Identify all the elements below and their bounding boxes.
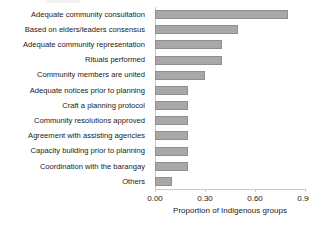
bar — [155, 25, 238, 34]
category-label-row: Craft a planning protocol — [0, 98, 150, 113]
bar — [155, 56, 222, 65]
bar — [155, 71, 205, 80]
x-tick-mark — [155, 189, 156, 192]
bar — [155, 40, 222, 49]
bar-chart: Adequate community consultationBased on … — [0, 0, 309, 230]
bar — [155, 101, 188, 110]
clipped-top-artifact — [46, 0, 80, 3]
x-tick-mark — [255, 189, 256, 192]
category-label: Adequate notices prior to planning — [30, 87, 145, 95]
bar-row — [155, 53, 305, 68]
bar — [155, 86, 188, 95]
x-tick-label: 0.60 — [247, 194, 263, 203]
bar-row — [155, 22, 305, 37]
category-label: Adequate community representation — [23, 41, 145, 49]
bar — [155, 10, 288, 19]
category-label-row: Rituals performed — [0, 53, 150, 68]
category-label: Community resolutions approved — [34, 117, 145, 125]
category-axis-labels: Adequate community consultationBased on … — [0, 7, 150, 189]
x-tick-mark — [305, 189, 306, 192]
category-label-row: Adequate notices prior to planning — [0, 83, 150, 98]
category-label-row: Adequate community representation — [0, 37, 150, 52]
category-label-row: Based on elders/leaders consensus — [0, 22, 150, 37]
x-tick-label: 0.00 — [147, 194, 163, 203]
bar — [155, 162, 188, 171]
bar-row — [155, 37, 305, 52]
bar-row — [155, 113, 305, 128]
bar-row — [155, 144, 305, 159]
bar — [155, 116, 188, 125]
x-tick-label: 0.30 — [197, 194, 213, 203]
category-label: Coordination with the barangay — [40, 163, 145, 171]
bar — [155, 177, 172, 186]
bar-row — [155, 159, 305, 174]
category-label: Community members are united — [37, 71, 145, 79]
category-label-row: Others — [0, 174, 150, 189]
category-label: Others — [122, 178, 145, 186]
category-label-row: Community members are united — [0, 68, 150, 83]
bar-row — [155, 7, 305, 22]
x-tick-mark — [205, 189, 206, 192]
category-label-row: Community resolutions approved — [0, 113, 150, 128]
category-label-row: Coordination with the barangay — [0, 159, 150, 174]
bar-row — [155, 174, 305, 189]
category-label: Capacity building prior to planning — [31, 147, 145, 155]
bar — [155, 147, 188, 156]
bar-row — [155, 68, 305, 83]
x-axis-title: Proportion of Indigenous groups — [155, 206, 305, 215]
bar-series — [155, 7, 305, 189]
category-label: Based on elders/leaders consensus — [25, 26, 145, 34]
bar — [155, 131, 188, 140]
plot-area — [155, 7, 305, 189]
category-label: Craft a planning protocol — [62, 102, 145, 110]
bar-row — [155, 83, 305, 98]
category-label-row: Capacity building prior to planning — [0, 144, 150, 159]
category-label: Adequate community consultation — [31, 11, 145, 19]
category-label-row: Agreement with assisting agencies — [0, 128, 150, 143]
category-label-row: Adequate community consultation — [0, 7, 150, 22]
category-label: Rituals performed — [85, 56, 145, 64]
x-tick-label: 0.90 — [297, 194, 309, 203]
bar-row — [155, 98, 305, 113]
category-label: Agreement with assisting agencies — [28, 132, 145, 140]
x-axis-line — [155, 189, 305, 190]
bar-row — [155, 128, 305, 143]
